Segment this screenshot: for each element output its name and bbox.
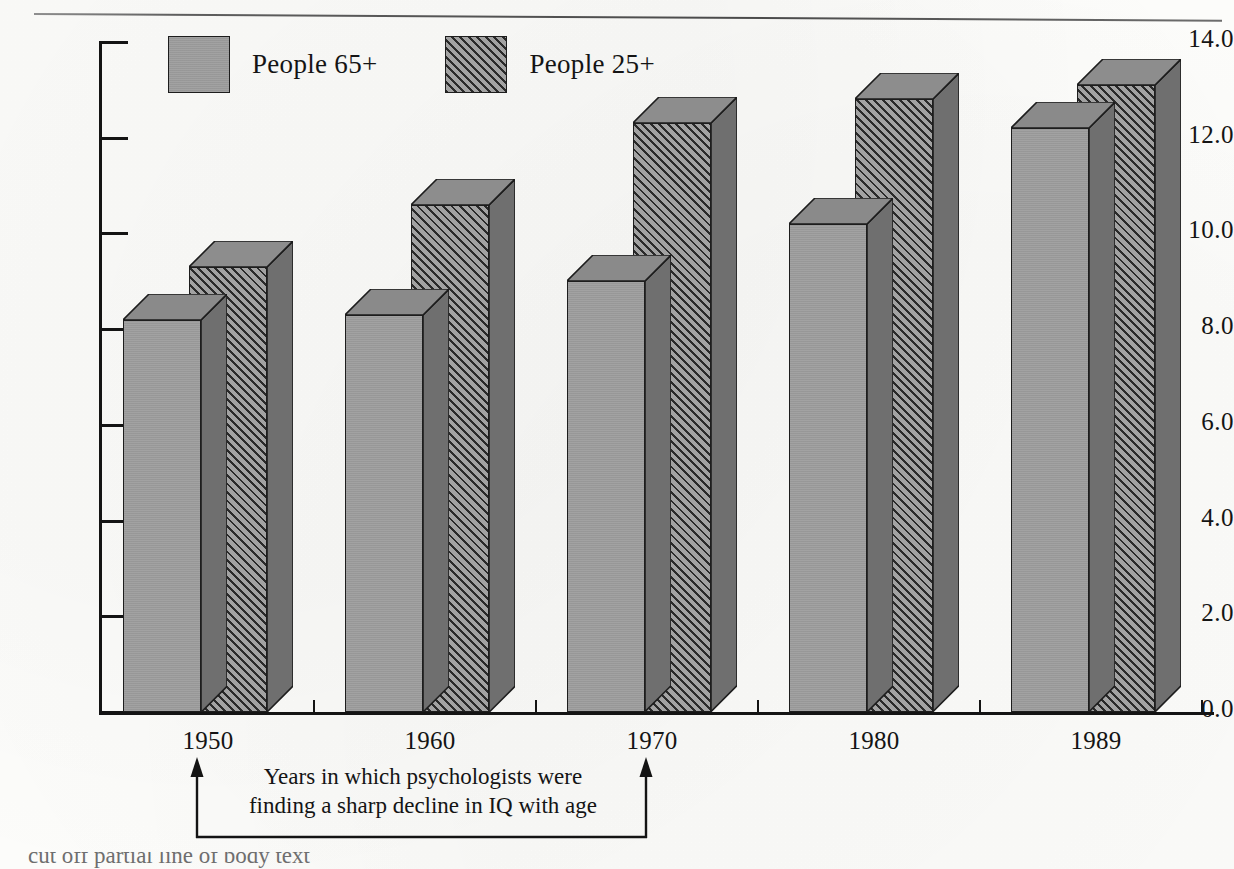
bar-top-face — [1077, 59, 1181, 85]
legend-swatch-hatched-icon — [445, 36, 507, 93]
x-axis-line — [99, 712, 1214, 715]
bar-side-face — [267, 241, 293, 712]
y-tick-14.0 — [99, 41, 128, 44]
legend-label-people-65: People 65+ — [252, 49, 377, 80]
y-tick-10.0 — [99, 232, 128, 235]
x-tick-label-1960: 1960 — [350, 727, 510, 755]
annotation-text: Years in which psychologists were findin… — [218, 762, 628, 821]
bar-side-face — [933, 73, 959, 712]
bar-front-face — [123, 320, 201, 712]
x-tick-0 — [313, 700, 315, 713]
bar-side-face — [867, 198, 893, 712]
bar-side-face — [201, 294, 227, 712]
chart-legend: People 65+ People 25+ — [168, 36, 655, 93]
bar-front-face — [567, 281, 645, 712]
y-tick-12.0 — [99, 137, 128, 140]
bar-top-face — [411, 179, 515, 205]
bar-top-face — [855, 73, 959, 99]
bar-front-face — [1011, 128, 1089, 712]
x-tick-3 — [979, 700, 981, 713]
x-tick-label-1980: 1980 — [794, 727, 954, 755]
figure-page: 0.02.04.06.08.010.012.014.0 195019601970… — [0, 0, 1234, 869]
bar-1960-people-65 — [345, 289, 449, 712]
legend-label-people-25: People 25+ — [529, 49, 654, 80]
annotation-line-1: Years in which psychologists were — [218, 762, 628, 791]
bar-1989-people-65 — [1011, 102, 1115, 712]
bar-chart-plot-area: 0.02.04.06.08.010.012.014.0 195019601970… — [0, 0, 1234, 869]
legend-item-people-25: People 25+ — [445, 36, 654, 93]
bar-side-face — [489, 179, 515, 712]
bar-side-face — [645, 255, 671, 712]
bar-side-face — [711, 97, 737, 712]
x-tick-label-1950: 1950 — [128, 727, 288, 755]
x-tick-label-1989: 1989 — [1016, 727, 1176, 755]
bar-top-face — [123, 294, 227, 320]
bar-top-face — [567, 255, 671, 281]
bar-side-face — [423, 289, 449, 712]
legend-item-people-65: People 65+ — [168, 36, 377, 93]
bar-side-face — [1089, 102, 1115, 712]
bar-front-face — [345, 315, 423, 712]
x-tick-4 — [1201, 700, 1203, 713]
bar-top-face — [1011, 102, 1115, 128]
bar-1950-people-65 — [123, 294, 227, 712]
bar-top-face — [789, 198, 893, 224]
x-tick-label-1970: 1970 — [572, 727, 732, 755]
y-tick-label-14.0: 14.0 — [1152, 25, 1234, 53]
y-axis-line — [99, 41, 102, 715]
bar-top-face — [633, 97, 737, 123]
cut-off-caption-text: cut off partial line of body text — [28, 852, 1208, 869]
annotation-line-2: finding a sharp decline in IQ with age — [218, 791, 628, 820]
bar-top-face — [189, 241, 293, 267]
cut-off-caption-region: cut off partial line of body text — [0, 852, 1234, 869]
bar-top-face — [345, 289, 449, 315]
x-tick-2 — [757, 700, 759, 713]
legend-swatch-solid-icon — [168, 36, 230, 93]
bar-1980-people-65 — [789, 198, 893, 712]
x-tick-1 — [535, 700, 537, 713]
bar-1970-people-65 — [567, 255, 671, 712]
bar-side-face — [1155, 59, 1181, 712]
bar-front-face — [789, 224, 867, 712]
